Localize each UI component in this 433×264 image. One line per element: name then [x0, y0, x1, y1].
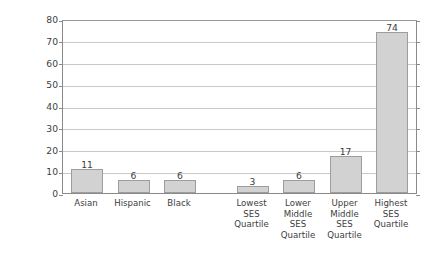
gridline	[63, 64, 416, 65]
bar	[376, 32, 408, 193]
y-axis-tick-mark-right	[416, 42, 420, 43]
y-axis-tick-label: 20	[32, 146, 58, 155]
gridline	[63, 108, 416, 109]
y-axis-tick-mark	[59, 42, 63, 43]
gridline	[63, 151, 416, 152]
plot-area: 1166361774	[62, 20, 417, 194]
gridline	[63, 86, 416, 87]
y-axis-tick-label: 50	[32, 81, 58, 90]
bar	[330, 156, 362, 193]
y-axis-tick-label: 60	[32, 59, 58, 68]
y-axis-tick-mark	[59, 86, 63, 87]
y-axis-tick-mark-right	[416, 108, 420, 109]
y-axis-tick-label: 40	[32, 102, 58, 111]
y-axis-tick-mark	[59, 108, 63, 109]
gridline	[63, 129, 416, 130]
bar	[164, 180, 196, 193]
x-axis-category-label: Upper Middle SES Quartile	[327, 198, 361, 240]
y-axis-tick-mark	[59, 21, 63, 22]
x-axis-category-label: Asian	[74, 198, 97, 209]
y-axis-tick-mark-right	[416, 129, 420, 130]
bar	[283, 180, 315, 193]
y-axis-tick-mark	[59, 151, 63, 152]
y-axis-tick-mark-right	[416, 195, 420, 196]
bar-value-label: 3	[250, 177, 256, 186]
x-axis-category-label: Highest SES Quartile	[374, 198, 408, 230]
x-axis-category-label: Lower Middle SES Quartile	[281, 198, 315, 240]
y-axis-tick-mark	[59, 173, 63, 174]
y-axis-tick-label: 80	[32, 15, 58, 24]
gridline	[63, 42, 416, 43]
bar	[118, 180, 150, 193]
bar	[71, 169, 103, 193]
bar-value-label: 6	[296, 171, 302, 180]
x-axis-category-label: Hispanic	[114, 198, 151, 209]
y-axis-tick-mark	[59, 195, 63, 196]
y-axis-tick-mark-right	[416, 173, 420, 174]
y-axis-tick-label: 70	[32, 37, 58, 46]
y-axis-tick-mark	[59, 129, 63, 130]
bar-value-label: 6	[131, 171, 137, 180]
y-axis-tick-label: 10	[32, 168, 58, 177]
bar-value-label: 74	[386, 23, 398, 32]
y-axis-tick-labels: 01020304050607080	[32, 0, 58, 264]
y-axis-tick-mark	[59, 64, 63, 65]
y-axis-tick-mark-right	[416, 21, 420, 22]
bar-value-label: 11	[81, 160, 93, 169]
x-axis-category-label: Black	[167, 198, 190, 209]
bar-chart: Freshmen Enrolled at Highly Selective Un…	[0, 0, 433, 264]
y-axis-tick-label: 30	[32, 124, 58, 133]
bar-value-label: 6	[177, 171, 183, 180]
y-axis-tick-mark-right	[416, 151, 420, 152]
y-axis-tick-label: 0	[32, 189, 58, 198]
y-axis-tick-mark-right	[416, 86, 420, 87]
bar-value-label: 17	[340, 147, 352, 156]
y-axis-tick-mark-right	[416, 64, 420, 65]
gridline	[63, 173, 416, 174]
x-axis-category-label: Lowest SES Quartile	[234, 198, 268, 230]
y-axis-title: Freshmen Enrolled at Highly Selective Un…	[0, 14, 34, 196]
